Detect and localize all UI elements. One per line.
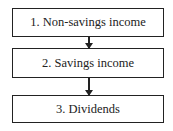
flow-node-dividends: 3. Dividends (12, 95, 164, 123)
arrow-down-icon (88, 37, 90, 48)
flow-node-non-savings-income: 1. Non-savings income (12, 8, 164, 37)
node-label: 3. Dividends (56, 102, 120, 117)
flow-node-savings-income: 2. Savings income (12, 48, 164, 78)
arrow-down-icon (88, 78, 90, 95)
node-label: 2. Savings income (42, 56, 134, 71)
node-label: 1. Non-savings income (30, 15, 146, 30)
